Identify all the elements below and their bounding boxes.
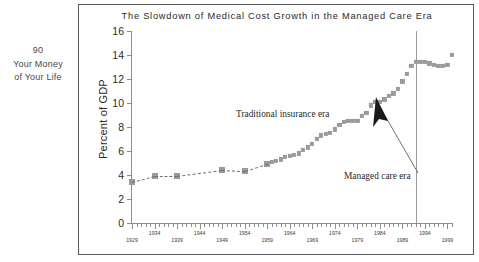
y-axis-tick-label: 16	[112, 25, 124, 37]
x-axis-major-tick	[335, 223, 336, 229]
x-axis-tick-label: 1969	[307, 237, 319, 243]
x-axis-minor-tick	[191, 223, 192, 227]
x-axis-minor-tick	[371, 223, 372, 227]
x-axis-minor-tick	[186, 223, 187, 227]
data-point-marker	[450, 53, 454, 57]
data-point-marker	[409, 64, 413, 68]
data-point-marker	[400, 79, 404, 83]
x-axis-minor-tick	[276, 223, 277, 227]
x-axis-major-tick	[245, 223, 246, 229]
x-axis-tick-label: 1964	[284, 230, 296, 236]
y-axis-tick	[127, 55, 131, 56]
x-axis-minor-tick	[326, 223, 327, 227]
y-axis-tick-label: 6	[118, 145, 124, 157]
x-axis-minor-tick	[393, 223, 394, 227]
x-axis-minor-tick	[366, 223, 367, 227]
x-axis-minor-tick	[299, 223, 300, 227]
x-axis-major-tick	[155, 223, 156, 229]
x-axis-minor-tick	[204, 223, 205, 227]
x-axis-minor-tick	[218, 223, 219, 227]
y-axis-line	[131, 31, 132, 224]
x-axis-minor-tick	[213, 223, 214, 227]
x-axis-minor-tick	[141, 223, 142, 227]
series-connector-segment	[245, 164, 268, 172]
x-axis-tick-label: 1939	[171, 237, 183, 243]
data-point-marker	[310, 142, 314, 146]
y-axis-tick	[127, 31, 131, 32]
x-axis-minor-tick	[195, 223, 196, 227]
y-axis-tick	[127, 127, 131, 128]
page-running-head: 90 Your Money of Your Life	[0, 44, 76, 85]
x-axis-minor-tick	[411, 223, 412, 227]
x-axis-minor-tick	[429, 223, 430, 227]
x-axis-major-tick	[222, 223, 223, 229]
data-point-marker	[445, 63, 449, 67]
series-connector-segment	[222, 170, 245, 172]
x-axis-minor-tick	[384, 223, 385, 227]
x-axis-minor-tick	[159, 223, 160, 227]
x-axis-minor-tick	[317, 223, 318, 227]
series-connector-segment	[155, 176, 178, 177]
x-axis-minor-tick	[254, 223, 255, 227]
book-title-line-2: of Your Life	[0, 71, 76, 85]
y-axis-tick	[127, 175, 131, 176]
data-point-marker	[315, 137, 319, 141]
series-connector-segment	[132, 176, 155, 183]
x-axis-major-tick	[447, 223, 448, 229]
chart-title: The Slowdown of Medical Cost Growth in t…	[79, 11, 475, 21]
x-axis-minor-tick	[416, 223, 417, 227]
x-axis-major-tick	[290, 223, 291, 229]
x-axis-major-tick	[312, 223, 313, 229]
x-axis-minor-tick	[375, 223, 376, 227]
x-axis-tick-label: 1984	[374, 230, 386, 236]
data-point-marker	[306, 145, 310, 149]
x-axis-tick-label: 1954	[239, 230, 251, 236]
x-axis-major-tick	[132, 223, 133, 229]
figure-frame: The Slowdown of Medical Cost Growth in t…	[78, 4, 474, 255]
y-axis-tick-label: 4	[118, 169, 124, 181]
series-connector-segment	[177, 170, 222, 177]
x-axis-major-tick	[402, 223, 403, 229]
x-axis-minor-tick	[407, 223, 408, 227]
x-axis-tick-label: 1999	[442, 237, 454, 243]
x-axis-minor-tick	[452, 223, 453, 227]
x-axis-minor-tick	[420, 223, 421, 227]
x-axis-tick-label: 1929	[126, 237, 138, 243]
x-axis-tick-label: 1959	[261, 237, 273, 243]
y-axis-tick-label: 2	[118, 193, 124, 205]
data-point-marker	[355, 119, 359, 123]
y-axis-tick-label: 0	[118, 217, 124, 229]
plot-area: 0246810121416 19341944195419641974198419…	[132, 31, 452, 223]
x-axis-minor-tick	[231, 223, 232, 227]
y-axis-tick	[127, 223, 131, 224]
x-axis-minor-tick	[321, 223, 322, 227]
y-axis-tick	[127, 103, 131, 104]
x-axis-minor-tick	[240, 223, 241, 227]
x-axis-major-tick	[267, 223, 268, 229]
x-axis-minor-tick	[344, 223, 345, 227]
x-axis-minor-tick	[146, 223, 147, 227]
x-axis-major-tick	[177, 223, 178, 229]
x-axis-tick-label: 1949	[216, 237, 228, 243]
data-point-marker	[405, 72, 409, 76]
y-axis-tick	[127, 199, 131, 200]
x-axis-minor-tick	[272, 223, 273, 227]
x-axis-minor-tick	[249, 223, 250, 227]
x-axis-minor-tick	[348, 223, 349, 227]
y-axis-tick-label: 8	[118, 121, 124, 133]
x-axis-minor-tick	[168, 223, 169, 227]
x-axis-tick-label: 1974	[329, 230, 341, 236]
x-axis-major-tick	[380, 223, 381, 229]
x-axis-minor-tick	[258, 223, 259, 227]
book-title-line-1: Your Money	[0, 58, 76, 72]
annotation-traditional-insurance-era: Traditional insurance era	[236, 109, 329, 119]
x-axis-minor-tick	[263, 223, 264, 227]
x-axis-minor-tick	[339, 223, 340, 227]
x-axis-minor-tick	[389, 223, 390, 227]
managed-care-arrow-icon	[360, 91, 424, 175]
x-axis-minor-tick	[150, 223, 151, 227]
data-point-marker	[333, 127, 337, 131]
x-axis-minor-tick	[209, 223, 210, 227]
x-axis-minor-tick	[438, 223, 439, 227]
x-axis-major-tick	[425, 223, 426, 229]
